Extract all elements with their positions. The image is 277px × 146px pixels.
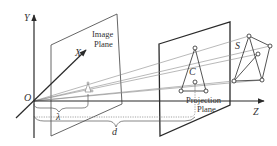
projection-plane [159,22,230,136]
image-plane-label-1: Image [92,29,113,39]
d-label: d [112,126,118,137]
x-axis-label: X [74,47,82,58]
lambda-label: λ [55,111,61,122]
object-label: S [235,40,240,51]
z-axis-label: Z [253,106,259,117]
centroid-label: C [189,66,196,77]
image-plane-label-2: Plane [94,39,113,49]
y-axis-label: Y [24,12,31,23]
projection-plane-label-2: Plane [197,104,216,114]
projection-diagram: Y X Z O Image Plane Projection Plane C S… [0,0,277,146]
origin-label: O [24,92,31,103]
